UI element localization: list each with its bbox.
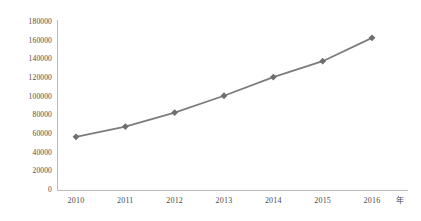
data-point-marker <box>221 92 228 99</box>
data-series-layer <box>0 0 421 221</box>
data-point-marker <box>369 34 376 41</box>
data-point-marker <box>270 74 277 81</box>
data-point-marker <box>73 133 80 140</box>
series-markers <box>73 34 376 140</box>
line-chart: 0200004000060000800001000001200001400001… <box>0 0 421 221</box>
data-point-marker <box>122 123 129 130</box>
series-line <box>76 38 372 137</box>
data-point-marker <box>171 109 178 116</box>
data-point-marker <box>319 58 326 65</box>
